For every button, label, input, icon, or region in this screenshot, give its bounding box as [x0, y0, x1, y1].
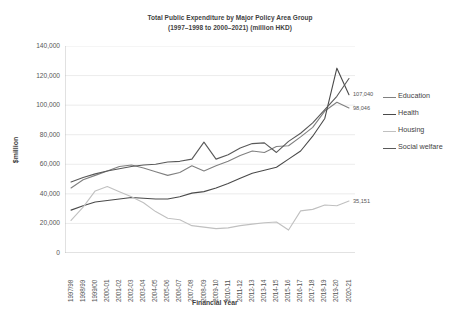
line-chart: Total Public Expenditure by Major Policy… [0, 0, 472, 319]
legend-label: Education [398, 91, 430, 100]
x-axis-tick-label: 2020-21 [345, 280, 352, 302]
plot-area [65, 46, 355, 253]
x-axis-tick-label: 2013-14 [260, 280, 267, 302]
x-axis-tick-label: 2019-20 [332, 280, 339, 302]
x-axis-tick-label: 2018-19 [320, 280, 327, 302]
x-axis-tick-label: 2011-12 [236, 280, 243, 302]
x-axis-tick-label: 2014-15 [272, 280, 279, 302]
x-axis-tick-label: 1999/00 [91, 280, 98, 302]
legend-item-housing[interactable]: Housing [383, 124, 471, 141]
y-axis-tick-label: 20,000 [16, 219, 60, 226]
legend-swatch-icon [383, 148, 396, 149]
x-axis-tick-label: 2001-02 [115, 280, 122, 302]
x-axis-tick-label: 2000-01 [103, 280, 110, 302]
x-axis-tick-label: 2005-06 [163, 280, 170, 302]
legend-swatch-icon [383, 114, 396, 115]
x-axis-tick-label: 2003-04 [139, 280, 146, 302]
x-axis-tick-label: 2008-09 [200, 280, 207, 302]
y-axis-tick-label: 80,000 [16, 131, 60, 138]
legend-swatch-icon [383, 97, 396, 98]
x-axis-tick-label: 2004-05 [151, 280, 158, 302]
x-axis-tick-label: 2016-17 [296, 280, 303, 302]
series-line-social-welfare [71, 79, 349, 183]
chart-title-line-1: Total Public Expenditure by Major Policy… [110, 13, 350, 23]
legend-item-health[interactable]: Health [383, 107, 471, 124]
legend-item-social-welfare[interactable]: Social welfare [383, 141, 471, 158]
x-axis-tick-label: 1997/98 [67, 280, 74, 302]
legend-item-education[interactable]: Education [383, 90, 471, 107]
x-axis-tick-label: 2009-10 [212, 280, 219, 302]
series-value-label: 98,046 [353, 105, 370, 111]
x-axis-tick-label: 2006-07 [175, 280, 182, 302]
series-value-label: 35,151 [353, 198, 370, 204]
legend-label: Housing [398, 125, 424, 134]
x-axis-tick-label: 2007-08 [187, 280, 194, 302]
x-axis-tick-label: 2010-11 [224, 280, 231, 302]
y-axis-tick-label: 0 [16, 249, 60, 256]
chart-legend: EducationHealthHousingSocial welfare [383, 90, 471, 158]
x-axis-tick-label: 2015-16 [284, 280, 291, 302]
y-axis-tick-label: 60,000 [16, 160, 60, 167]
x-axis-tick-label: 1998/99 [79, 280, 86, 302]
legend-label: Health [398, 108, 419, 117]
y-axis-tick-label: 40,000 [16, 190, 60, 197]
y-axis-ticks: 140,000120,000100,00080,00060,00040,0002… [14, 0, 60, 319]
x-axis-tick-label: 2017-18 [308, 280, 315, 302]
y-axis-tick-label: 100,000 [16, 101, 60, 108]
x-axis-tick-label: 2002-03 [127, 280, 134, 302]
legend-swatch-icon [383, 131, 396, 132]
x-axis-ticks: 1997/981998/991999/002000-012001-022002-… [65, 256, 355, 302]
y-axis-tick-label: 140,000 [16, 42, 60, 49]
series-line-education [71, 102, 349, 188]
y-axis-tick-label: 120,000 [16, 72, 60, 79]
series-value-label: 107,040 [353, 91, 373, 97]
x-axis-tick-label: 2012-13 [248, 280, 255, 302]
legend-label: Social welfare [398, 142, 443, 151]
plot-svg [65, 46, 355, 253]
chart-title: Total Public Expenditure by Major Policy… [110, 13, 350, 32]
chart-title-line-2: (1997–1998 to 2000–2021) (million HKD) [110, 23, 350, 33]
